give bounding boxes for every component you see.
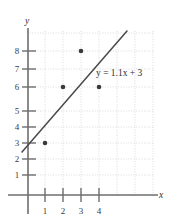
data-point (97, 85, 102, 90)
y-tick-label-4: 4 (15, 122, 20, 132)
data-points (43, 49, 102, 146)
y-tick-label-5: 5 (15, 106, 20, 116)
y-tick-label-2: 2 (15, 154, 20, 164)
x-axis-label: x (158, 190, 164, 200)
y-tick-label-7: 7 (15, 64, 20, 74)
data-point (43, 141, 48, 146)
axes (8, 28, 158, 214)
grid-lines (27, 31, 153, 196)
data-point (79, 49, 84, 54)
plot-canvas: 1 2 3 4 5 6 7 8 1 2 3 4 y x y = 1. (0, 0, 174, 224)
x-tick-label-3: 3 (79, 206, 84, 216)
data-point (61, 85, 66, 90)
x-tick-label-2: 2 (61, 206, 66, 216)
y-axis-ticks (22, 51, 36, 175)
regression-line (22, 31, 127, 152)
y-axis-label: y (24, 16, 30, 26)
y-tick-label-8: 8 (15, 46, 20, 56)
y-tick-label-3: 3 (15, 138, 20, 148)
y-tick-label-1: 1 (15, 170, 20, 180)
x-tick-label-4: 4 (97, 206, 102, 216)
scatter-plot-figure: 1 2 3 4 5 6 7 8 1 2 3 4 y x y = 1. (0, 0, 174, 224)
x-tick-label-1: 1 (43, 206, 48, 216)
y-tick-label-6: 6 (15, 82, 20, 92)
x-tick-labels: 1 2 3 4 (43, 206, 102, 216)
regression-equation-label: y = 1.1x + 3 (96, 68, 143, 78)
y-tick-labels: 1 2 3 4 5 6 7 8 (15, 46, 20, 180)
